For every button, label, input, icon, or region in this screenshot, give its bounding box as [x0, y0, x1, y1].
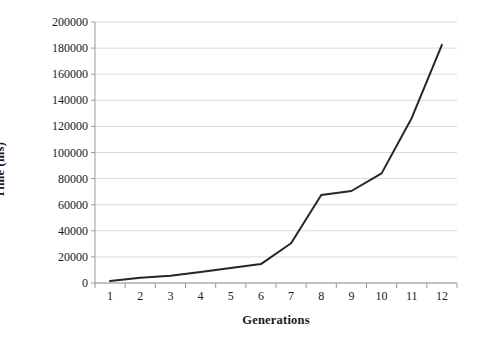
x-tick-label: 8	[318, 289, 324, 304]
x-tick-label: 2	[137, 289, 143, 304]
x-tick-label: 11	[406, 289, 418, 304]
x-tick-label: 9	[348, 289, 354, 304]
x-tick-label: 12	[436, 289, 448, 304]
x-axis-title: Generations	[95, 313, 457, 328]
line-chart: Time (ms) 020000400006000080000100000120…	[0, 0, 489, 340]
x-tick-label: 3	[167, 289, 173, 304]
data-series-line	[110, 45, 442, 281]
x-tick-label: 6	[258, 289, 264, 304]
x-tick-label: 10	[376, 289, 388, 304]
x-tick-label: 1	[107, 289, 113, 304]
x-tick-label: 4	[198, 289, 204, 304]
x-tick-label: 5	[228, 289, 234, 304]
x-tick-label: 7	[288, 289, 294, 304]
